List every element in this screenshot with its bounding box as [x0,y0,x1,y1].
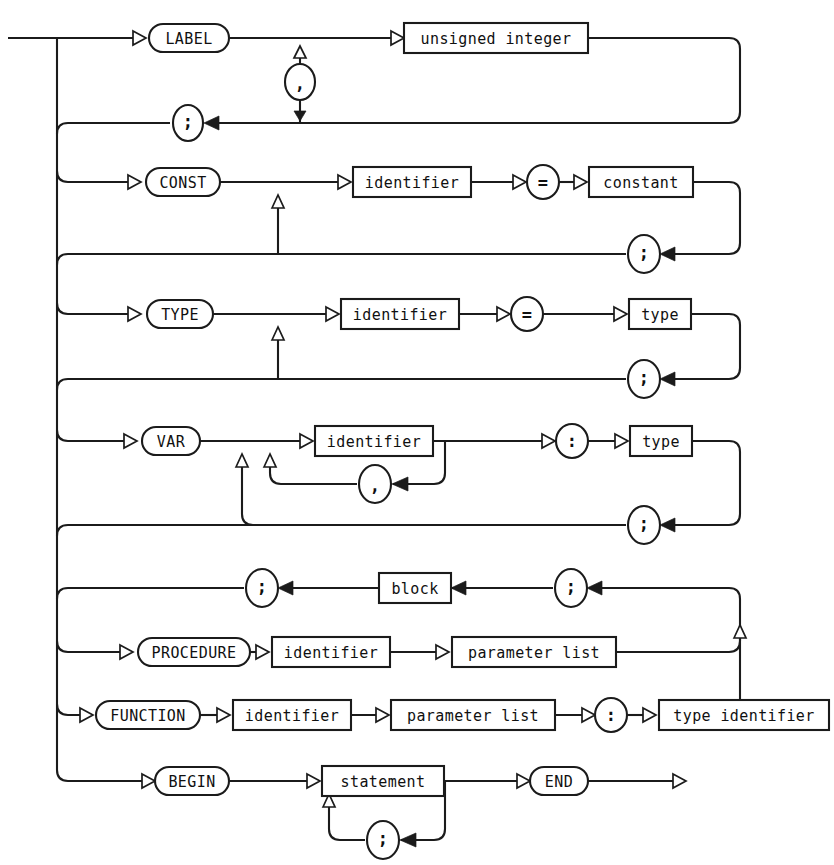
node-label-keyword[interactable]: LABEL [149,24,229,52]
node-statement[interactable]: statement [322,766,444,796]
arrow-const-loop-up [272,195,284,208]
node-type-identifier-text: identifier [353,306,447,324]
node-var-semicolon[interactable]: ; [628,506,660,544]
arrow-into-routine-semicolon-left [278,581,293,595]
arrow-into-end [517,774,530,788]
arrow-label-comma-merge [294,111,306,121]
arrow-into-const-semicolon [660,247,675,261]
node-routine-semicolon-left-text: ; [257,577,268,597]
arrow-into-const-identifier [338,175,351,189]
node-routine-semicolon-left[interactable]: ; [246,569,278,607]
node-var-comma-text: , [370,476,381,496]
node-label-comma[interactable]: , [285,64,315,100]
node-const-equals[interactable]: = [527,165,559,199]
node-const-identifier-text: identifier [365,174,459,192]
arrow-into-type-value [614,307,627,321]
node-const-equals-text: = [538,173,549,193]
node-routine-semicolon-right[interactable]: ; [555,569,587,607]
node-type-semicolon-text: ; [639,368,650,388]
arrow-type-loop-up [272,327,284,340]
node-end-keyword-text: END [545,773,573,791]
node-proc-identifier-text: identifier [284,644,378,662]
arrow-into-var-comma [392,477,408,491]
node-label-semicolon[interactable]: ; [173,105,203,141]
node-type-value-text: type [641,306,679,324]
node-label-keyword-text: LABEL [165,30,212,48]
main-left-rail [57,38,155,781]
syntax-diagram-canvas: LABEL unsigned integer , ; CONST identif… [0,0,834,865]
node-var-identifier[interactable]: identifier [315,426,433,456]
node-begin-semicolon-text: ; [378,829,389,849]
node-type-equals[interactable]: = [511,297,543,331]
node-var-keyword-text: VAR [157,433,186,451]
arrow-into-func-params [376,708,389,722]
node-func-colon-text: : [606,705,617,725]
node-var-colon-text: : [567,431,578,451]
arrow-routine-merge-up [734,625,746,638]
node-var-colon[interactable]: : [556,424,588,458]
const-return-to-rail [57,254,278,265]
node-type-keyword-text: TYPE [161,306,199,324]
node-function-keyword[interactable]: FUNCTION [96,701,200,729]
node-proc-identifier[interactable]: identifier [272,637,390,667]
arrow-into-const [128,175,141,189]
var-comma-loop [270,455,357,484]
node-begin-semicolon[interactable]: ; [367,821,399,859]
label-return-to-rail [57,123,170,134]
node-func-params[interactable]: parameter list [391,700,555,730]
node-label-item-text: unsigned integer [421,30,572,48]
node-type-identifier[interactable]: identifier [341,299,459,329]
arrow-var-semicolon-loop-up [236,454,248,467]
arrow-into-begin [142,774,155,788]
type-semicolon-loop [278,328,626,379]
node-func-params-text: parameter list [407,707,539,725]
node-type-value[interactable]: type [629,299,691,329]
node-label-item[interactable]: unsigned integer [404,23,588,53]
node-func-colon[interactable]: : [595,698,627,732]
node-const-semicolon[interactable]: ; [628,235,660,273]
node-func-result[interactable]: type identifier [659,700,829,730]
railroad-diagram: LABEL unsigned integer , ; CONST identif… [0,0,834,865]
node-var-keyword[interactable]: VAR [142,427,200,455]
arrow-exit [673,774,686,788]
var-semicolon-loop [242,455,626,525]
arrow-into-func-colon [582,708,595,722]
arrow-into-procedure [120,645,133,659]
node-var-identifier-text: identifier [327,433,421,451]
node-type-keyword[interactable]: TYPE [147,300,213,328]
node-func-identifier[interactable]: identifier [233,700,351,730]
node-const-constant-text: constant [603,174,678,192]
node-func-identifier-text: identifier [245,707,339,725]
node-routine-block[interactable]: block [379,573,451,603]
arrow-into-func-result [643,708,656,722]
node-type-equals-text: = [522,305,533,325]
arrow-into-statement [307,774,320,788]
arrow-into-function [80,708,93,722]
node-func-result-text: type identifier [673,707,814,725]
routine-semi-to-right [589,588,740,625]
arrow-into-constant [574,175,587,189]
arrow-into-type-semicolon [660,372,675,386]
node-begin-keyword[interactable]: BEGIN [155,767,229,795]
node-proc-params-text: parameter list [468,644,600,662]
arrow-into-type [128,307,141,321]
node-procedure-keyword[interactable]: PROCEDURE [138,638,250,666]
node-begin-keyword-text: BEGIN [168,773,215,791]
node-routine-block-text: block [391,580,438,598]
node-end-keyword[interactable]: END [530,767,588,795]
node-const-identifier[interactable]: identifier [353,167,471,197]
arrow-into-type-identifier [326,307,339,321]
node-var-comma[interactable]: , [359,465,391,503]
node-label-comma-text: , [295,74,306,94]
node-label-semicolon-text: ; [183,112,194,132]
node-procedure-keyword-text: PROCEDURE [152,644,237,662]
arrow-into-routine-semicolon-right [587,581,602,595]
node-proc-params[interactable]: parameter list [452,637,616,667]
node-const-keyword-text: CONST [159,174,206,192]
node-const-constant[interactable]: constant [589,167,693,197]
node-type-semicolon[interactable]: ; [628,360,660,398]
node-var-type[interactable]: type [630,426,692,456]
node-const-keyword[interactable]: CONST [146,168,220,196]
proc-params-to-right [616,625,740,652]
arrow-label-comma-up [294,46,306,58]
